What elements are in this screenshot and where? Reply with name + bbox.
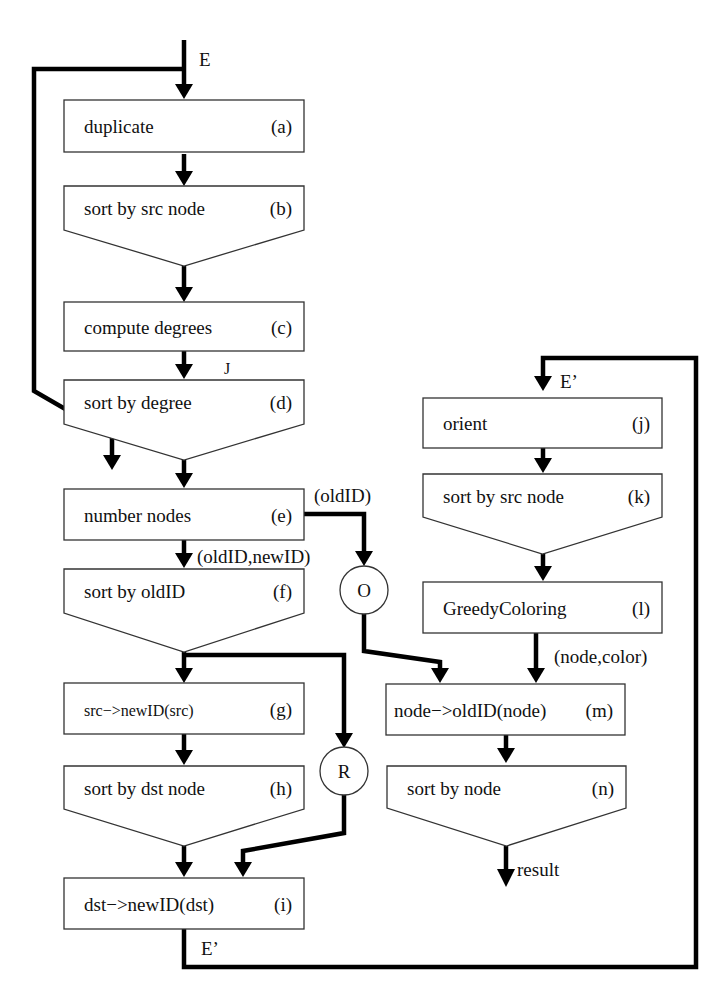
- node-label: orient: [443, 413, 488, 434]
- edge-label-oldid: (oldID): [314, 485, 371, 507]
- edge-label-e-prime-out: E’: [201, 938, 219, 959]
- arrowhead-n: [497, 748, 515, 763]
- node-label: node−>oldID(node): [394, 700, 546, 722]
- node-tag: (h): [270, 778, 292, 800]
- arrowhead-k: [534, 458, 552, 473]
- arrowhead-l: [534, 566, 552, 581]
- edge-label-oldid-newid: (oldID,newID): [197, 546, 310, 568]
- process-node-g: src−>newID(src)(g): [64, 683, 304, 734]
- arrowhead-m-left: [431, 668, 449, 683]
- node-tag: (n): [592, 778, 614, 800]
- node-label: compute degrees: [84, 317, 212, 338]
- connector-label: R: [338, 761, 351, 782]
- arrowhead-g: [175, 668, 193, 683]
- connector-label: O: [357, 580, 371, 601]
- edge-label-e-prime-in: E’: [560, 371, 578, 392]
- node-tag: (f): [273, 581, 292, 603]
- arrowhead-r: [335, 733, 353, 748]
- process-node-l: GreedyColoring(l): [423, 582, 662, 633]
- process-node-f: sort by oldID(f): [64, 569, 304, 652]
- node-label: sort by dst node: [84, 778, 205, 799]
- arrowhead-result: [497, 869, 515, 887]
- edge-label-node-color: (node,color): [554, 646, 647, 668]
- node-label: sort by degree: [84, 392, 192, 413]
- arrowhead-j: [534, 376, 552, 391]
- arrowhead-e: [175, 473, 193, 488]
- arrowhead-o: [355, 551, 373, 566]
- node-tag: (l): [632, 598, 650, 620]
- process-node-e: number nodes(e): [64, 489, 304, 540]
- process-node-a: duplicate(a): [64, 100, 304, 152]
- arrowhead-d: [175, 364, 193, 379]
- edge-e-o: [303, 514, 364, 553]
- process-node-j: orient(j): [423, 398, 662, 448]
- node-tag: (k): [628, 486, 650, 508]
- node-tag: (j): [632, 413, 650, 435]
- connector-o: O: [340, 566, 388, 614]
- node-label: GreedyColoring: [443, 598, 567, 619]
- arrowhead-f: [175, 553, 193, 568]
- node-tag: (d): [270, 392, 292, 414]
- node-tag: (g): [270, 699, 292, 721]
- node-label: sort by src node: [443, 486, 564, 507]
- node-tag: (c): [271, 317, 292, 339]
- connector-r: R: [320, 747, 368, 795]
- flowchart: duplicate(a)sort by src node(b)compute d…: [0, 0, 728, 1001]
- node-tag: (m): [586, 700, 613, 722]
- node-label: sort by oldID: [84, 581, 185, 602]
- process-node-h: sort by dst node(h): [64, 766, 304, 846]
- node-label: sort by src node: [84, 198, 205, 219]
- edge-label-j: J: [224, 360, 230, 377]
- node-tag: (i): [274, 894, 292, 916]
- arrowhead-i-right: [234, 862, 252, 877]
- node-tag: (b): [270, 198, 292, 220]
- arrowhead-g-left: [103, 455, 121, 470]
- node-label: src−>newID(src): [84, 702, 194, 720]
- process-node-k: sort by src node(k): [423, 474, 662, 554]
- node-tag: (e): [271, 505, 292, 527]
- process-node-i: dst−>newID(dst)(i): [64, 878, 304, 929]
- arrowhead-c: [175, 287, 193, 302]
- arrowhead-m: [527, 668, 545, 683]
- node-label: dst−>newID(dst): [84, 894, 214, 916]
- node-label: duplicate: [84, 116, 154, 137]
- arrowhead-b: [175, 171, 193, 186]
- node-label: number nodes: [84, 505, 191, 526]
- process-node-m: node−>oldID(node)(m): [386, 684, 625, 735]
- arrowhead-a: [175, 84, 193, 99]
- node-label: sort by node: [407, 778, 501, 799]
- process-node-c: compute degrees(c): [64, 302, 304, 351]
- process-node-n: sort by node(n): [387, 766, 626, 846]
- arrowhead-i: [175, 862, 193, 877]
- process-node-b: sort by src node(b): [64, 186, 304, 266]
- input-label-e: E: [199, 49, 211, 70]
- process-node-d: sort by degree(d): [64, 380, 304, 460]
- output-label-result: result: [517, 859, 560, 880]
- arrowhead-h: [175, 750, 193, 765]
- node-tag: (a): [271, 116, 292, 138]
